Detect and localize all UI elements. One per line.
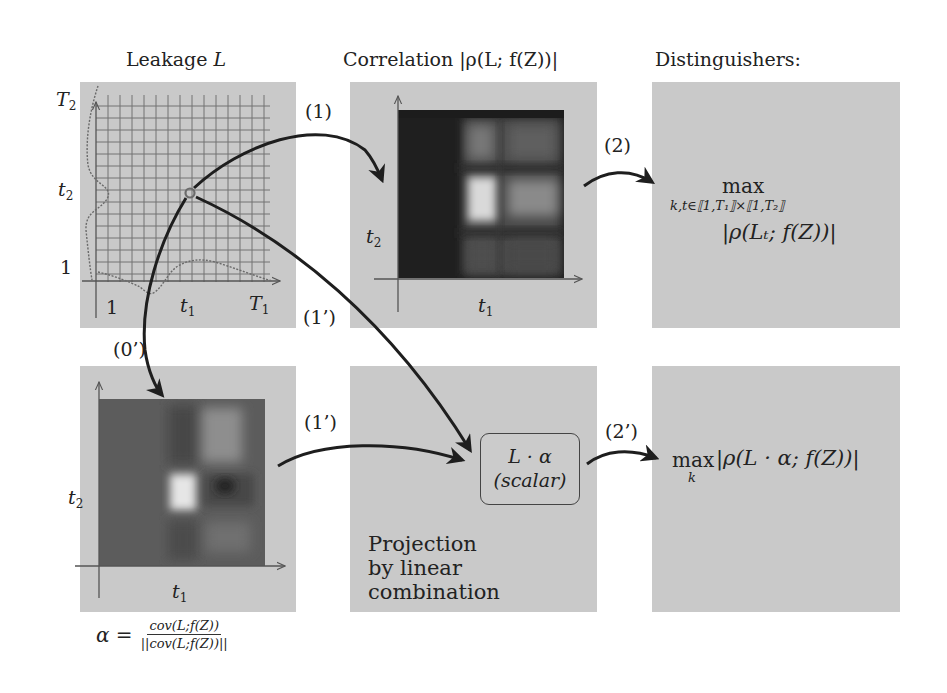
max-subscript: k,t∈⟦1,T₁⟧×⟦1,T₂⟧ bbox=[670, 198, 784, 213]
max-operator: max bbox=[672, 448, 714, 472]
label-main: t bbox=[172, 580, 180, 602]
leakage-x-low-label: 1 bbox=[106, 296, 118, 318]
label-sub: 2 bbox=[374, 236, 382, 250]
distinguishers-title: Distinguishers: bbox=[655, 48, 801, 70]
leakage-y-top-label: T2 bbox=[56, 88, 76, 113]
label-main: t bbox=[58, 178, 66, 200]
scalar-box: L · α (scalar) bbox=[480, 433, 580, 505]
correlation-x-label: t1 bbox=[478, 294, 493, 319]
label-sub: 1 bbox=[262, 303, 270, 317]
label-main: T bbox=[56, 88, 69, 110]
correlation-title: Correlation |ρ(L; f(Z))| bbox=[343, 48, 558, 70]
max-operator: max bbox=[722, 174, 764, 198]
distinguisher-expression: |ρ(L · α; f(Z))| bbox=[716, 446, 860, 470]
alpha-formula-lhs: α = bbox=[96, 623, 133, 647]
leakage-title-var: L bbox=[213, 48, 226, 70]
distinguisher-bottom-panel bbox=[652, 366, 900, 612]
leakage-x-top-label: T1 bbox=[249, 292, 269, 317]
caption-line: by linear bbox=[368, 556, 500, 580]
label-main: T bbox=[249, 292, 262, 314]
caption-line: combination bbox=[368, 580, 500, 604]
label-sub: 2 bbox=[66, 189, 74, 203]
scalar-expression: L · α bbox=[481, 444, 579, 468]
scalar-caption: (scalar) bbox=[481, 468, 579, 492]
arrow-2prime-label: (2’) bbox=[605, 420, 638, 442]
alpha-numerator: cov(L;f(Z)) bbox=[147, 618, 221, 635]
label-sub: 1 bbox=[486, 305, 494, 319]
alpha-panel bbox=[80, 366, 296, 612]
label-main: t bbox=[366, 225, 374, 247]
max-subscript: k bbox=[688, 470, 696, 485]
leakage-y-mid-label: t2 bbox=[58, 178, 73, 203]
alpha-y-label: t2 bbox=[68, 486, 83, 511]
arrow-2-label: (2) bbox=[604, 134, 631, 156]
label-sub: 1 bbox=[180, 591, 188, 605]
arrow-1prime-top-label: (1’) bbox=[303, 306, 336, 328]
arrow-0prime-label: (0’) bbox=[113, 338, 146, 360]
label-sub: 2 bbox=[69, 99, 77, 113]
arrow-1-label: (1) bbox=[305, 100, 332, 122]
correlation-panel bbox=[350, 82, 597, 328]
arrow-1prime-bottom-label: (1’) bbox=[304, 411, 337, 433]
caption-line: Projection bbox=[368, 532, 500, 556]
label-main: t bbox=[68, 486, 76, 508]
projection-caption: Projection by linear combination bbox=[368, 532, 500, 604]
leakage-y-low-label: 1 bbox=[60, 256, 72, 278]
arrow-2prime bbox=[587, 452, 656, 464]
alpha-denominator: ||cov(L;f(Z))|| bbox=[141, 635, 228, 651]
label-main: t bbox=[180, 294, 188, 316]
label-sub: 2 bbox=[76, 497, 84, 511]
leakage-title-text: Leakage bbox=[126, 48, 213, 70]
alpha-x-label: t1 bbox=[172, 580, 187, 605]
label-main: t bbox=[478, 294, 486, 316]
label-sub: 1 bbox=[188, 305, 196, 319]
correlation-y-label: t2 bbox=[366, 225, 381, 250]
leakage-x-mid-label: t1 bbox=[180, 294, 195, 319]
alpha-fraction: cov(L;f(Z)) ||cov(L;f(Z))|| bbox=[141, 618, 228, 651]
distinguisher-expression: |ρ(Lₜ; f(Z))| bbox=[722, 220, 837, 244]
alpha-formula: α = cov(L;f(Z)) ||cov(L;f(Z))|| bbox=[96, 618, 228, 651]
leakage-title: Leakage L bbox=[126, 48, 226, 70]
